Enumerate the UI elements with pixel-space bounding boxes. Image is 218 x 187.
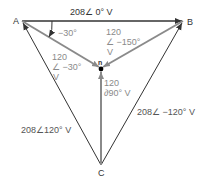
node-label-b: B [187,17,193,27]
angle-marker-label: −30° [58,28,77,38]
angle-arc [49,21,52,37]
line-voltage-bc: 208∠ −120° V [137,107,195,117]
node-label-c: C [98,168,105,178]
neutral-node [99,67,104,72]
phase-an-unit: V [53,72,59,82]
phase-bn-magnitude: 120 [106,27,121,37]
phase-an-angle: ∠ −30° [52,62,82,72]
phase-bn-angle: ∠ −150° [106,37,141,47]
line-voltage-ca: 208∠120° V [21,125,71,135]
phase-bn-unit: V [107,47,113,57]
phasor-diagram: A B C n 208∠ 0° V 208∠120° V 208∠ −120° … [0,0,218,187]
phase-cn-angle: ∂90° V [104,88,131,98]
node-label-n: n [98,59,102,66]
node-label-a: A [13,16,19,26]
line-voltage-ab: 208∠ 0° V [70,7,113,17]
phase-cn-magnitude: 120 [104,78,119,88]
phase-an-magnitude: 120 [52,52,67,62]
